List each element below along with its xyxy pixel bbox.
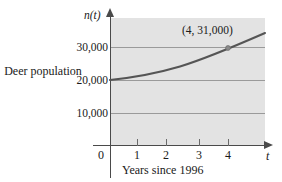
curve-layer	[0, 0, 282, 182]
deer-population-chart: 30,000 20,000 10,000 0 1 2 3 4 n(t) t De…	[0, 0, 282, 182]
data-point-marker-4	[226, 46, 231, 51]
population-curve	[110, 33, 265, 80]
